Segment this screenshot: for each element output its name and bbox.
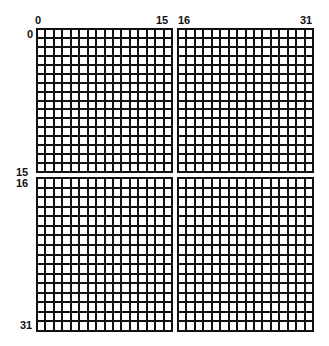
grid-cell (55, 57, 61, 64)
grid-cell (179, 198, 185, 206)
grid-cell (38, 128, 44, 135)
grid-cell (72, 294, 78, 302)
grid-cell (46, 256, 52, 264)
grid-cell (55, 246, 61, 254)
grid-cell (306, 208, 312, 216)
grid-cell (187, 39, 193, 46)
grid-cell (187, 294, 193, 302)
grid-cell (156, 110, 162, 117)
grid-cell (89, 66, 95, 73)
grid-cell (263, 246, 269, 254)
grid-cell (272, 146, 278, 153)
grid-cell (114, 39, 120, 46)
grid-cell (131, 119, 137, 126)
grid-cell (204, 303, 210, 311)
grid-cell (272, 275, 278, 283)
grid-cell (238, 294, 244, 302)
grid-cell (230, 39, 236, 46)
grid-cell (280, 84, 286, 91)
grid-cell (46, 102, 52, 109)
grid-cell (196, 119, 202, 126)
grid-cell (63, 189, 69, 197)
grid-cell (204, 39, 210, 46)
grid-cell (139, 265, 145, 273)
grid-cell (89, 294, 95, 302)
grid-cell (280, 146, 286, 153)
grid-cell (297, 155, 303, 162)
grid-cell (114, 30, 120, 37)
grid-cell (80, 217, 86, 225)
grid-cell (289, 227, 295, 235)
grid-cell (38, 275, 44, 283)
grid-cell (297, 322, 303, 330)
grid-cell (139, 217, 145, 225)
grid-cell (179, 110, 185, 117)
grid-cell (165, 84, 171, 91)
grid-cell (255, 179, 261, 187)
grid-cell (272, 48, 278, 55)
grid-cell (165, 227, 171, 235)
grid-cell (106, 146, 112, 153)
grid-cell (196, 265, 202, 273)
grid-cell (165, 236, 171, 244)
grid-cell (179, 275, 185, 283)
grid-cell (247, 155, 253, 162)
grid-cell (148, 102, 154, 109)
grid-cell (38, 217, 44, 225)
grid-cell (89, 227, 95, 235)
grid-cell (221, 256, 227, 264)
grid-cell (289, 75, 295, 82)
grid-cell (280, 189, 286, 197)
grid-cell (306, 102, 312, 109)
grid-cell (46, 198, 52, 206)
grid-cell (306, 246, 312, 254)
grid-cell (38, 189, 44, 197)
grid-cell (306, 227, 312, 235)
grid-cell (63, 284, 69, 292)
grid-cell (204, 164, 210, 171)
grid-cell (230, 227, 236, 235)
grid-cell (247, 84, 253, 91)
grid-cell (230, 256, 236, 264)
grid-cell (148, 57, 154, 64)
grid-cell (46, 164, 52, 171)
grid-cell (72, 265, 78, 273)
grid-cell (72, 179, 78, 187)
grid-cell (156, 284, 162, 292)
grid-cell (156, 236, 162, 244)
grid-cell (89, 236, 95, 244)
grid-cell (89, 198, 95, 206)
grid-cell (131, 164, 137, 171)
grid-cell (221, 284, 227, 292)
grid-cell (213, 313, 219, 321)
grid-cell (72, 155, 78, 162)
grid-cell (272, 155, 278, 162)
grid-cell (106, 217, 112, 225)
grid-cell (263, 217, 269, 225)
grid-cell (187, 303, 193, 311)
grid-cell (263, 198, 269, 206)
grid-cell (114, 48, 120, 55)
grid-cell (63, 48, 69, 55)
grid-cell (280, 284, 286, 292)
grid-cell (80, 284, 86, 292)
grid-cell (165, 322, 171, 330)
grid-cell (196, 246, 202, 254)
grid-cell (156, 322, 162, 330)
grid-cell (148, 198, 154, 206)
grid-cell (272, 39, 278, 46)
grid-cell (255, 66, 261, 73)
grid-cell (114, 256, 120, 264)
grid-cell (46, 322, 52, 330)
grid-cell (289, 128, 295, 135)
grid-cell (179, 128, 185, 135)
grid-cell (204, 227, 210, 235)
grid-cell (97, 48, 103, 55)
grid-cell (280, 236, 286, 244)
grid-cell (55, 198, 61, 206)
grid-cell (55, 256, 61, 264)
grid-cell (187, 313, 193, 321)
grid-cell (165, 146, 171, 153)
grid-cell (289, 102, 295, 109)
grid-cell (55, 128, 61, 135)
